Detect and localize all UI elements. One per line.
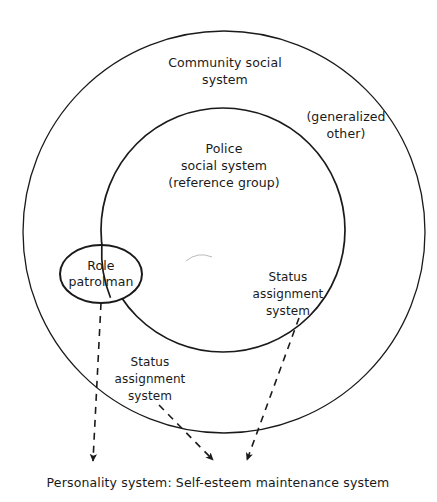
status-assignment-system-left-label: Status assignment system xyxy=(115,354,186,405)
generalized-other-label: (generalized other) xyxy=(306,108,385,142)
stray-pencil-mark xyxy=(186,255,212,261)
community-social-system-label: Community social system xyxy=(168,54,282,88)
police-social-system-label: Police social system (reference group) xyxy=(168,140,279,191)
status-assignment-system-right-label: Status assignment system xyxy=(253,269,324,320)
role-patrolman-to-personality-arrow xyxy=(93,303,101,461)
personality-system-label: Personality system: Self-esteem maintena… xyxy=(47,474,390,491)
diagram-canvas: Community social system (generalized oth… xyxy=(0,0,437,502)
role-patrolman-label: Role patrolman xyxy=(68,258,133,290)
community-social-system-circle xyxy=(23,31,425,433)
status-assignment-right-to-personality-arrow xyxy=(247,318,299,460)
